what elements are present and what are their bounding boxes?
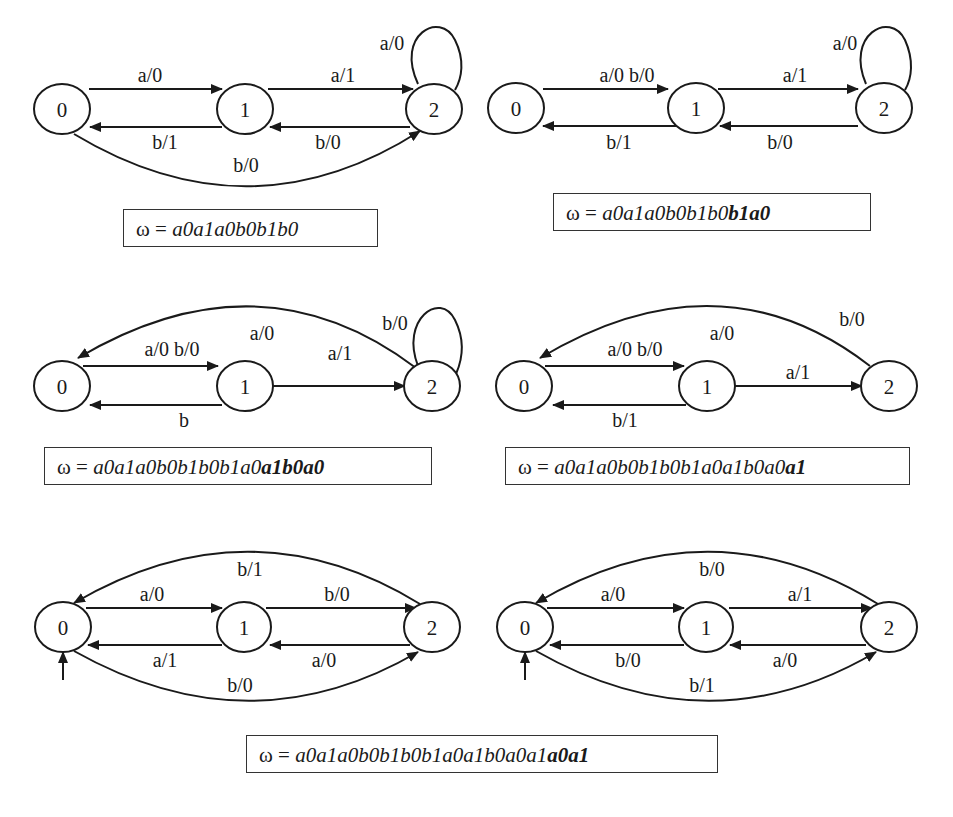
state-0-label: 0: [58, 616, 69, 640]
edge-label: b: [179, 409, 189, 431]
state-1-label: 1: [240, 98, 251, 122]
edge-label: a/0 b/0: [608, 338, 663, 360]
state-2-label: 2: [427, 616, 438, 640]
edge-label: a/0: [710, 322, 734, 344]
edge-label: a/0: [138, 64, 162, 86]
diagram-5: 0 1 2 a/0 b/0 a/1 a/0 b/1 b/0: [35, 552, 460, 701]
omega-box-final: ω = a0a1a0b0b1b0b1a0a1b0a0a1a0a1: [246, 735, 718, 773]
omega-box-4: ω = a0a1a0b0b1b0b1a0a1b0a0a1: [505, 447, 910, 485]
state-2-label: 2: [884, 375, 895, 399]
edge-label: a/1: [783, 64, 807, 86]
omega-prefix: ω =: [518, 455, 554, 479]
omega-sequence: a0a1a0b0b1b0: [602, 201, 728, 225]
edge-label: b/0: [615, 649, 641, 671]
edge-label: b/1: [612, 409, 638, 431]
state-2-label: 2: [427, 375, 438, 399]
omega-sequence: a0a1a0b0b1b0b1a0: [93, 455, 261, 479]
omega-box-3: ω = a0a1a0b0b1b0b1a0a1b0a0: [44, 447, 432, 485]
omega-sequence: a0a1a0b0b1b0b1a0a1b0a0a1: [295, 743, 547, 767]
state-0-label: 0: [519, 375, 530, 399]
omega-sequence-new: a1b0a0: [261, 455, 324, 479]
state-0-label: 0: [520, 616, 531, 640]
omega-sequence-new: b1a0: [728, 201, 770, 225]
edge-label: a/1: [788, 583, 812, 605]
edge-label: a/0: [250, 322, 274, 344]
edge-label: b/1: [689, 674, 715, 696]
omega-prefix: ω =: [136, 217, 172, 241]
edge-label: b/0: [382, 312, 408, 334]
edge-label: a/1: [331, 64, 355, 86]
edge-label: a/1: [786, 361, 810, 383]
edge-2-2: [412, 27, 462, 90]
state-2-label: 2: [879, 97, 890, 121]
edge-label: a/0 b/0: [600, 64, 655, 86]
state-0-label: 0: [511, 97, 522, 121]
edge-label: a/0 b/0: [145, 338, 200, 360]
edge-label: b/0: [324, 583, 350, 605]
omega-sequence-new: a1: [785, 455, 806, 479]
edge-label: a/0: [601, 583, 625, 605]
diagram-2: 0 1 2 a/0 b/0 a/1 b/1 b/0 a/0: [488, 27, 912, 153]
edge-label: b/0: [233, 154, 259, 176]
diagram-4: 0 1 2 a/0 b/0 a/1 b/1 a/0 b/0: [496, 306, 917, 431]
fsm-figure: 0 1 2 a/0 a/1 b/1 b/0 b/0 a/0 0 1 2 a/0 …: [0, 0, 953, 817]
edge-label: b/1: [237, 558, 263, 580]
state-1-label: 1: [240, 375, 251, 399]
edge-label: b/0: [767, 131, 793, 153]
edge-label: a/1: [153, 649, 177, 671]
state-2-label: 2: [429, 98, 440, 122]
omega-box-2: ω = a0a1a0b0b1b0b1a0: [553, 193, 871, 231]
edge-label: b/0: [699, 558, 725, 580]
omega-prefix: ω =: [57, 455, 93, 479]
edge-label: a/0: [312, 649, 336, 671]
edge-label: a/0: [773, 649, 797, 671]
diagram-1: 0 1 2 a/0 a/1 b/1 b/0 b/0 a/0: [34, 27, 462, 186]
edge-2-0: [540, 306, 870, 366]
state-1-label: 1: [702, 375, 713, 399]
state-1-label: 1: [691, 97, 702, 121]
omega-prefix: ω =: [259, 743, 295, 767]
omega-sequence: a0a1a0b0b1b0: [172, 217, 298, 241]
omega-box-1: ω = a0a1a0b0b1b0: [123, 209, 378, 247]
edge-2-2: [861, 27, 912, 90]
edge-label: b/0: [315, 131, 341, 153]
edge-label: a/0: [833, 32, 857, 54]
state-1-label: 1: [239, 616, 250, 640]
omega-sequence: a0a1a0b0b1b0b1a0a1b0a0: [554, 455, 785, 479]
omega-sequence-new: a0a1: [547, 743, 589, 767]
edge-label: b/1: [152, 131, 178, 153]
state-0-label: 0: [57, 375, 68, 399]
edge-label: b/0: [227, 674, 253, 696]
edge-label: b/0: [839, 308, 865, 330]
state-0-label: 0: [57, 98, 68, 122]
edge-label: a/1: [328, 342, 352, 364]
state-1-label: 1: [701, 616, 712, 640]
edge-label: a/0: [380, 32, 404, 54]
edge-label: a/0: [140, 583, 164, 605]
edge-label: b/1: [606, 131, 632, 153]
state-2-label: 2: [884, 616, 895, 640]
diagram-3: 0 1 2 a/0 b/0 a/1 b a/0 b/0: [34, 306, 462, 431]
omega-prefix: ω =: [566, 201, 602, 225]
diagram-6: 0 1 2 a/0 a/1 b/0 a/0 b/0 b/1: [497, 552, 917, 701]
edge-2-0: [78, 306, 416, 368]
